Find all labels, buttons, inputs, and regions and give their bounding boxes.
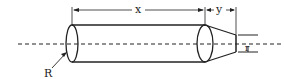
small-r-label: r	[245, 43, 250, 53]
y-arrow-left	[206, 8, 211, 12]
y-label: y	[215, 3, 223, 16]
r-pointer-arrow	[61, 52, 67, 57]
y-arrow-right	[230, 8, 235, 12]
big-r-label: R	[44, 67, 53, 79]
frustum-bottom-edge	[205, 52, 236, 62]
x-arrow-right	[198, 8, 204, 12]
cylinder-frustum-diagram: x y R r	[0, 0, 284, 79]
frustum-top-edge	[205, 25, 236, 35]
x-arrow-left	[73, 8, 79, 12]
x-label: x	[135, 3, 142, 16]
